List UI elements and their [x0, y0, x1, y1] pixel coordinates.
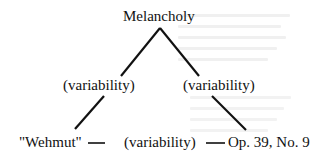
edge-root-right: [160, 28, 199, 76]
edge-label-bottom-variability: (variability): [124, 134, 196, 150]
edge-root-left: [121, 28, 160, 76]
node-op39-no9: Op. 39, No. 9: [228, 134, 310, 150]
edge-label-right-variability: (variability): [183, 77, 255, 93]
node-melancholy: Melancholy: [123, 8, 195, 24]
node-wehmut: "Wehmut": [19, 134, 82, 150]
edge-label-left-variability: (variability): [63, 77, 135, 93]
edge-left-lower: [75, 96, 104, 129]
edge-right-lower: [212, 96, 246, 130]
